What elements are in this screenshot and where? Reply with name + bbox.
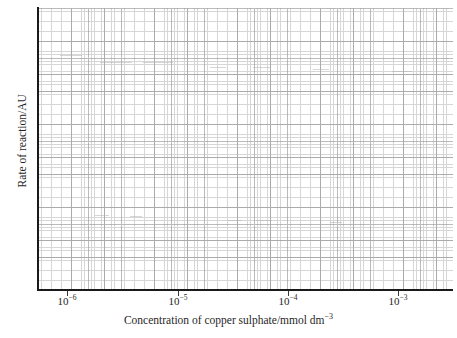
scan-artifact bbox=[392, 71, 412, 72]
x-tick-label: 10−4 bbox=[279, 296, 298, 307]
x-tick-label: 10−5 bbox=[169, 296, 188, 307]
x-tick-mantissa: 10 bbox=[169, 295, 180, 307]
x-axis-title-exponent: −3 bbox=[325, 312, 334, 321]
y-axis-title: Rate of reaction/AU bbox=[17, 51, 29, 231]
scan-artifact bbox=[100, 62, 132, 63]
x-tick-exponent: −5 bbox=[180, 293, 188, 302]
scan-artifact bbox=[130, 216, 142, 217]
x-axis-title-text: Concentration of copper sulphate/mmol dm bbox=[124, 314, 325, 326]
x-tick-exponent: −6 bbox=[69, 293, 77, 302]
scan-artifact bbox=[253, 67, 271, 68]
x-axis-spine bbox=[37, 289, 453, 291]
scan-artifact bbox=[256, 220, 272, 221]
x-tick-mantissa: 10 bbox=[58, 295, 69, 307]
scan-artifact bbox=[210, 67, 226, 68]
scan-artifact bbox=[330, 222, 342, 223]
scan-artifact bbox=[313, 69, 329, 70]
scan-artifact bbox=[143, 62, 173, 63]
x-tick-mantissa: 10 bbox=[279, 295, 290, 307]
x-tick-exponent: −4 bbox=[290, 293, 298, 302]
x-tick-label: 10−6 bbox=[58, 296, 77, 307]
x-axis-title: Concentration of copper sulphate/mmol dm… bbox=[0, 315, 457, 327]
scan-artifact bbox=[228, 220, 242, 221]
x-tick-exponent: −3 bbox=[400, 293, 408, 302]
plot-area bbox=[38, 8, 453, 290]
y-axis-spine bbox=[37, 7, 39, 291]
x-tick-mantissa: 10 bbox=[389, 295, 400, 307]
major-gridlines bbox=[38, 8, 453, 290]
chart-figure: 10−610−510−410−3 Concentration of copper… bbox=[0, 0, 457, 338]
scan-artifact bbox=[60, 55, 82, 56]
scan-artifact bbox=[95, 215, 109, 216]
x-tick-label: 10−3 bbox=[389, 296, 408, 307]
